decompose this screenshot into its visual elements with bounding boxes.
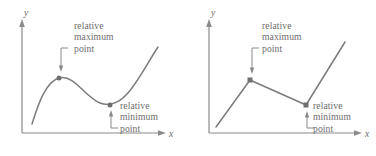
panel-smooth-curve: y x relative maximum point relative mini… (0, 0, 188, 156)
relative-maximum-line-3: point (262, 43, 302, 54)
relative-minimum-line-3: point (120, 123, 158, 134)
relative-maximum-line-1: relative (262, 20, 302, 31)
max-leader-arrowhead (250, 68, 254, 75)
relative-minimum-line-2: minimum (313, 111, 351, 122)
x-axis-label: x (168, 129, 174, 139)
relative-minimum-point-dot (304, 103, 309, 108)
relative-minimum-line-1: relative (120, 100, 158, 111)
relative-minimum-annotation: relative minimum point (313, 100, 351, 134)
panel-piecewise-linear: y x relative maximum point relative mini… (188, 0, 376, 156)
x-axis-label: x (364, 129, 370, 139)
relative-minimum-line-3: point (313, 123, 351, 134)
relative-maximum-point-dot (57, 76, 62, 81)
relative-minimum-line-1: relative (313, 100, 351, 111)
relative-minimum-point-dot (108, 103, 113, 108)
relative-maximum-line-2: maximum (74, 31, 114, 42)
relative-minimum-line-2: minimum (120, 111, 158, 122)
x-axis-arrowhead (354, 130, 362, 136)
y-axis-arrowhead (19, 19, 25, 27)
y-axis-arrowhead (206, 19, 212, 27)
relative-maximum-line-3: point (74, 43, 114, 54)
relative-maximum-annotation: relative maximum point (74, 20, 114, 54)
relative-maximum-line-1: relative (74, 20, 114, 31)
min-leader-arrowhead (305, 111, 309, 118)
x-axis-arrowhead (158, 130, 166, 136)
relative-minimum-annotation: relative minimum point (120, 100, 158, 134)
relative-maximum-annotation: relative maximum point (262, 20, 302, 54)
calculus-extrema-figure: y x relative maximum point relative mini… (0, 0, 376, 156)
relative-maximum-point-dot (248, 78, 253, 83)
min-leader-arrowhead (109, 110, 113, 117)
max-leader-arrowhead (59, 66, 63, 73)
y-axis-label: y (23, 8, 29, 18)
relative-maximum-line-2: maximum (262, 31, 302, 42)
y-axis-label: y (210, 8, 216, 18)
